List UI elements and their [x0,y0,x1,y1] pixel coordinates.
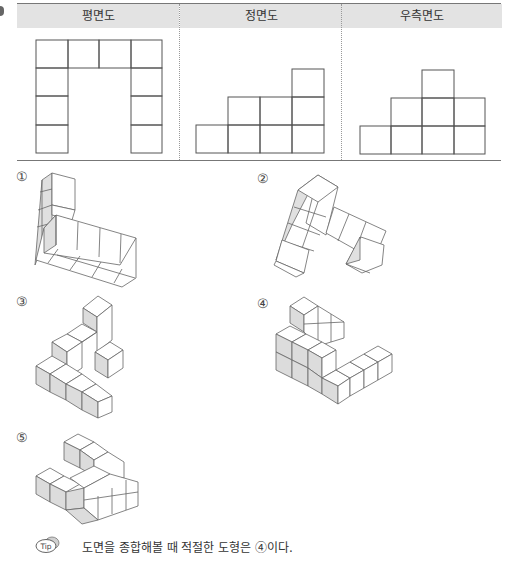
front-view-drawing [180,28,342,160]
question-marker [0,6,4,16]
option-4-figure [254,290,508,420]
option-1-figure [0,165,254,290]
orthographic-views-table: 평면도 정면도 우측면도 [17,3,501,161]
answer-option-2[interactable]: ② [254,165,508,290]
right-view-drawing [342,28,502,160]
plan-view: 평면도 [17,4,179,160]
option-3-figure [0,290,254,420]
tip-text: 도면을 종합해볼 때 적절한 도형은 ④이다. [82,538,293,555]
svg-text:Tip: Tip [39,542,51,551]
plan-view-header: 평면도 [17,4,179,28]
answer-option-1[interactable]: ① [0,165,254,290]
answer-option-3[interactable]: ③ [0,290,254,420]
answer-option-5[interactable]: ⑤ [0,420,254,530]
plan-view-drawing [17,28,179,160]
tip-icon: Tip [35,536,61,554]
right-view-header: 우측면도 [342,4,502,28]
option-2-figure [254,165,508,290]
option-5-figure [0,420,254,530]
tip-row: Tip 도면을 종합해볼 때 적절한 도형은 ④이다. [35,536,495,556]
front-view: 정면도 [179,4,342,160]
front-view-header: 정면도 [180,4,342,28]
right-side-view: 우측면도 [341,4,502,160]
answer-option-4[interactable]: ④ [254,290,508,420]
